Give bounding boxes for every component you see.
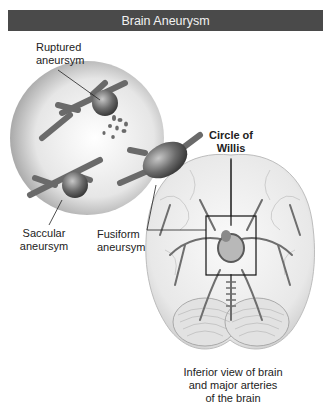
- label-line: aneursym: [36, 54, 84, 67]
- ruptured-aneurysm-label: Ruptured aneursym: [36, 41, 84, 67]
- label-line: Fusiform: [97, 228, 145, 241]
- label-line: Ruptured: [36, 41, 84, 54]
- label-line: Circle of: [200, 129, 262, 142]
- label-line: and major arteries: [168, 379, 298, 392]
- label-line: aneursym: [19, 240, 69, 253]
- fusiform-aneurysm-label: Fusiform aneursym: [97, 228, 145, 254]
- label-line: Willis: [200, 142, 262, 155]
- label-line: Inferior view of brain: [168, 366, 298, 379]
- brain-inferior-view: [146, 154, 315, 349]
- label-line: aneursym: [97, 241, 145, 254]
- saccular-aneurysm-label: Saccular aneursym: [19, 227, 69, 253]
- brain-caption: Inferior view of brain and major arterie…: [168, 366, 298, 405]
- label-line: Saccular: [19, 227, 69, 240]
- label-line: of the brain: [168, 392, 298, 405]
- circle-of-willis-label: Circle of Willis: [200, 129, 262, 155]
- magnified-aneurysm-view: [10, 61, 164, 215]
